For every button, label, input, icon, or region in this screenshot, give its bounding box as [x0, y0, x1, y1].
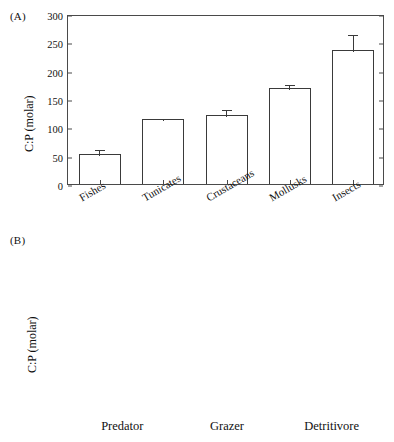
y-tick-label: 250 — [47, 39, 68, 50]
error-bar-cap — [285, 85, 295, 86]
y-tick-mark-right — [379, 44, 383, 45]
panel-a-label: (A) — [10, 10, 26, 22]
y-tick-mark — [68, 72, 72, 73]
panel-a-plot-area: 050100150200250300 — [67, 15, 384, 185]
y-tick-mark-right — [379, 101, 383, 102]
error-bar-whisker — [226, 110, 227, 117]
y-tick-label: 0 — [58, 181, 68, 192]
y-tick-mark — [68, 129, 72, 130]
y-tick-label: 150 — [47, 96, 68, 107]
panel-b-label: (B) — [10, 234, 25, 246]
panel-b-y-axis-label: C:P (molar) — [25, 316, 40, 373]
x-tick-label: Grazer — [210, 419, 244, 434]
y-tick-mark — [68, 186, 72, 187]
y-tick-label: 50 — [53, 152, 69, 163]
y-tick-label: 100 — [47, 124, 68, 135]
y-tick-mark-right — [379, 129, 383, 130]
panel-a: (A) C:P (molar) 050100150200250300 Fishe… — [0, 0, 394, 221]
y-tick-mark-right — [379, 186, 383, 187]
bar — [332, 50, 374, 184]
y-tick-mark-right — [379, 157, 383, 158]
y-tick-label: 200 — [47, 67, 68, 78]
error-bar-whisker — [353, 35, 354, 51]
y-tick-mark — [68, 16, 72, 17]
y-tick-label: 300 — [47, 11, 68, 22]
error-bar-cap — [348, 35, 358, 36]
error-bar-cap — [222, 110, 232, 111]
error-bar-cap — [95, 150, 105, 151]
x-tick-label: Predator — [101, 419, 143, 434]
error-bar-cap — [158, 119, 168, 120]
y-tick-mark — [68, 101, 72, 102]
panel-b: (B) C:P (molar) 050100150200250300350 Pr… — [0, 221, 394, 442]
y-tick-mark — [68, 44, 72, 45]
y-tick-mark-right — [379, 16, 383, 17]
panel-a-y-axis-label: C:P (molar) — [22, 95, 37, 152]
y-tick-mark — [68, 157, 72, 158]
x-tick-label: Detritivore — [304, 419, 359, 434]
y-tick-mark-right — [379, 72, 383, 73]
bar — [269, 88, 311, 184]
